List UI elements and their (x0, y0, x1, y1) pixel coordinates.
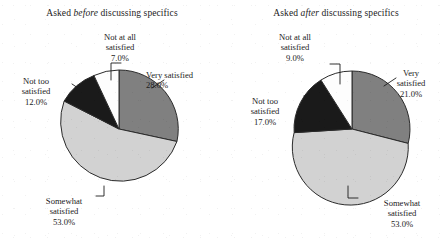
callout-before-not-at-all-line2: satisfied (106, 42, 135, 52)
two-pie-chart-figure: Asked before discussing specifics Not at… (0, 0, 448, 249)
callout-before-very-name: Very satisfied (146, 70, 193, 80)
callout-after-not-at-all-line2: satisfied (281, 42, 310, 52)
callout-after-not-too-pct: 17.0% (228, 117, 302, 127)
callout-after-not-too-line1: Not too (252, 96, 278, 106)
callout-before-very-pct: 28.0% (146, 80, 224, 90)
callout-before-not-too-pct: 12.0% (2, 97, 70, 107)
callout-after-not-too-satisfied: Not too satisfied 17.0% (228, 96, 302, 127)
callout-after-very-line1: Very (403, 68, 419, 78)
callout-after-somewhat-satisfied: Somewhat satisfied 53.0% (362, 198, 442, 229)
callout-after-very-satisfied: Very satisfied 21.0% (380, 68, 442, 99)
callout-after-somewhat-pct: 53.0% (362, 219, 442, 229)
callout-after-somewhat-line1: Somewhat (384, 198, 420, 208)
callout-before-somewhat-pct: 53.0% (26, 217, 102, 227)
callout-before-not-too-line2: satisfied (22, 86, 51, 96)
leader-before-somewhat (96, 186, 104, 196)
callout-before-somewhat-line2: satisfied (50, 206, 79, 216)
callout-before-not-at-all-pct: 7.0% (84, 53, 156, 63)
callout-before-not-at-all-satisfied: Not at all satisfied 7.0% (84, 32, 156, 63)
callout-after-very-pct: 21.0% (380, 89, 442, 99)
callout-before-not-at-all-line1: Not at all (104, 32, 136, 42)
callout-before-somewhat-line1: Somewhat (46, 196, 82, 206)
callout-before-very-satisfied: Very satisfied 28.0% (146, 70, 224, 91)
callout-after-not-at-all-pct: 9.0% (258, 53, 332, 63)
pie-after-slice-somewhat-satisfied (292, 129, 408, 205)
callout-after-not-at-all-line1: Not at all (279, 32, 311, 42)
panel-asked-after: Asked after discussing specifics Not at … (224, 0, 448, 249)
panel-asked-before: Asked before discussing specifics Not at… (0, 0, 224, 249)
callout-after-not-too-line2: satisfied (251, 106, 280, 116)
callout-before-not-too-line1: Not too (23, 76, 49, 86)
callout-before-somewhat-satisfied: Somewhat satisfied 53.0% (26, 196, 102, 227)
callout-before-not-too-satisfied: Not too satisfied 12.0% (2, 76, 70, 107)
callout-after-very-line2: satisfied (397, 78, 426, 88)
callout-after-somewhat-line2: satisfied (388, 208, 417, 218)
callout-after-not-at-all-satisfied: Not at all satisfied 9.0% (258, 32, 332, 63)
